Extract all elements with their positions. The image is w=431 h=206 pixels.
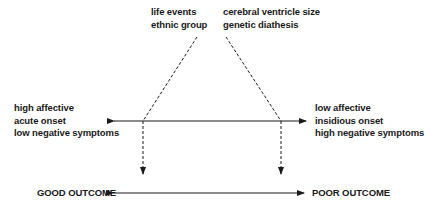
feature-insidious-onset: insidious onset bbox=[315, 115, 424, 128]
factor-ethnic-group: ethnic group bbox=[151, 19, 207, 32]
top-left-factors: life events ethnic group bbox=[151, 6, 207, 31]
feature-low-affective: low affective bbox=[315, 102, 424, 115]
poor-outcome-label: POOR OUTCOME bbox=[312, 187, 390, 198]
left-factor-dashed-line bbox=[143, 37, 197, 121]
good-outcome-label: GOOD OUTCOME bbox=[37, 187, 116, 198]
right-factor-dashed-line bbox=[226, 37, 281, 121]
feature-high-negative-symptoms: high negative symptoms bbox=[315, 127, 424, 140]
feature-high-affective: high affective bbox=[14, 102, 119, 115]
left-features: high affective acute onset low negative … bbox=[14, 102, 119, 140]
feature-low-negative-symptoms: low negative symptoms bbox=[14, 127, 119, 140]
feature-acute-onset: acute onset bbox=[14, 115, 119, 128]
factor-cerebral-ventricle-size: cerebral ventricle size bbox=[223, 6, 320, 19]
top-right-factors: cerebral ventricle size genetic diathesi… bbox=[223, 6, 320, 31]
right-features: low affective insidious onset high negat… bbox=[315, 102, 424, 140]
factor-life-events: life events bbox=[151, 6, 207, 19]
factor-genetic-diathesis: genetic diathesis bbox=[223, 19, 320, 32]
